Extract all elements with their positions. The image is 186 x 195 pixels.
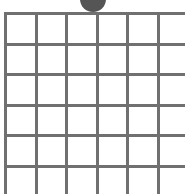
board-cell[interactable] <box>38 76 66 104</box>
board-cell[interactable] <box>129 15 157 43</box>
board-cell[interactable] <box>160 76 186 104</box>
board-cell[interactable] <box>129 76 157 104</box>
board-cell[interactable] <box>99 137 127 165</box>
board-cell[interactable] <box>38 107 66 135</box>
board-cell[interactable] <box>68 107 96 135</box>
board-cell[interactable] <box>160 46 186 74</box>
board-cell[interactable] <box>38 15 66 43</box>
board-cell[interactable] <box>129 46 157 74</box>
drop-token-icon[interactable] <box>80 0 106 12</box>
board-cell[interactable] <box>7 137 35 165</box>
board-cell[interactable] <box>99 76 127 104</box>
board-cell[interactable] <box>68 15 96 43</box>
board-cell[interactable] <box>160 15 186 43</box>
board-cell[interactable] <box>68 46 96 74</box>
board-cell[interactable] <box>7 15 35 43</box>
board-cell[interactable] <box>99 15 127 43</box>
board-cell[interactable] <box>68 137 96 165</box>
board-cell[interactable] <box>129 137 157 165</box>
board-cell[interactable] <box>129 168 157 195</box>
board-cell[interactable] <box>68 76 96 104</box>
board-cell[interactable] <box>7 76 35 104</box>
board-cell[interactable] <box>99 168 127 195</box>
board-cell[interactable] <box>99 46 127 74</box>
board-cell[interactable] <box>7 46 35 74</box>
board-cell[interactable] <box>7 107 35 135</box>
board-cell[interactable] <box>7 168 35 195</box>
board-cell[interactable] <box>129 107 157 135</box>
board-cell[interactable] <box>38 137 66 165</box>
board-cell[interactable] <box>38 46 66 74</box>
board-cell[interactable] <box>99 107 127 135</box>
board-cell[interactable] <box>160 137 186 165</box>
board-cell[interactable] <box>160 168 186 195</box>
board-cell[interactable] <box>160 107 186 135</box>
game-board <box>4 12 185 194</box>
board-cell[interactable] <box>38 168 66 195</box>
board-cell[interactable] <box>68 168 96 195</box>
